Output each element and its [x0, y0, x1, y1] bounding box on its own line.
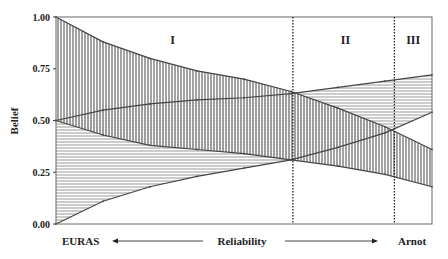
data-point — [337, 86, 339, 88]
data-point — [384, 126, 386, 128]
region-labels: IIIIII — [170, 33, 420, 47]
data-point — [196, 149, 198, 151]
y-tick-label: 1.00 — [33, 12, 51, 23]
y-tick-label: 0.25 — [33, 167, 51, 178]
data-point — [149, 58, 151, 60]
arrow-left-icon — [112, 239, 118, 244]
data-point — [102, 109, 104, 111]
x-axis-annotation: EURAS Reliability Arnot — [62, 235, 426, 247]
x-left-label: EURAS — [62, 235, 99, 247]
data-point — [384, 173, 386, 175]
y-axis: 0.000.250.500.751.00 — [33, 12, 57, 230]
data-point — [243, 78, 245, 80]
plot-areas — [56, 17, 432, 224]
data-point — [337, 165, 339, 167]
data-point — [149, 186, 151, 188]
y-tick-label: 0.00 — [33, 219, 51, 230]
data-point — [102, 200, 104, 202]
data-point — [196, 99, 198, 101]
data-point — [337, 147, 339, 149]
data-point — [290, 91, 292, 93]
data-point — [149, 144, 151, 146]
data-point — [337, 107, 339, 109]
region-label: II — [341, 33, 351, 47]
region-label: I — [170, 33, 175, 47]
data-point — [243, 97, 245, 99]
data-point — [102, 134, 104, 136]
data-point — [243, 153, 245, 155]
data-point — [290, 159, 292, 161]
data-point — [149, 103, 151, 105]
y-tick-label: 0.75 — [33, 63, 51, 74]
data-point — [102, 41, 104, 43]
data-point — [384, 80, 386, 82]
y-tick-label: 0.50 — [33, 115, 51, 126]
data-point — [290, 93, 292, 95]
x-axis-title: Reliability — [218, 235, 267, 247]
arrow-right-icon — [372, 239, 378, 244]
belief-chart: 0.000.250.500.751.00 IIIIII Belief EURAS… — [0, 0, 448, 259]
x-right-label: Arnot — [398, 235, 426, 247]
y-axis-title: Belief — [8, 107, 20, 134]
data-point — [196, 70, 198, 72]
data-point — [243, 167, 245, 169]
region-label: III — [406, 33, 420, 47]
data-point — [196, 175, 198, 177]
data-point — [384, 132, 386, 134]
